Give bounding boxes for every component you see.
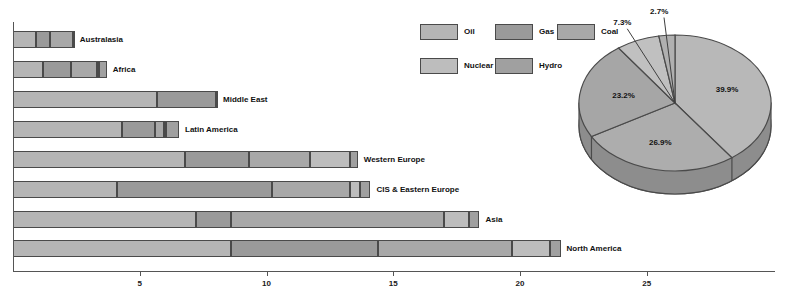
bar-segment xyxy=(13,211,196,228)
bar-category-label: North America xyxy=(567,240,622,257)
bar-segment xyxy=(13,31,36,48)
x-axis-tick xyxy=(267,271,268,276)
bar-segment xyxy=(13,151,185,168)
bar-segment xyxy=(444,211,469,228)
pie-slice-percentage: 23.2% xyxy=(612,91,635,100)
x-axis-tick-label: 5 xyxy=(130,279,150,288)
legend-label: Oil xyxy=(464,24,475,40)
x-axis-tick xyxy=(647,271,648,276)
legend-swatch-gas xyxy=(495,24,533,40)
legend-swatch-hydro xyxy=(495,58,533,74)
x-axis-tick-label: 25 xyxy=(637,279,657,288)
bar-segment xyxy=(350,181,360,198)
bar-segment xyxy=(231,211,444,228)
bar-segment xyxy=(13,181,117,198)
legend-label: Gas xyxy=(539,24,554,40)
bar-category-label: Australasia xyxy=(80,31,123,48)
pie-slice-percentage: 39.9% xyxy=(716,85,739,94)
bar-segment xyxy=(71,61,96,78)
pie-slice-percentage: 26.9% xyxy=(649,138,672,147)
bar-segment xyxy=(350,151,358,168)
bar-segment xyxy=(166,121,179,138)
bar-category-label: CIS & Eastern Europe xyxy=(376,181,459,198)
legend-swatch-nuclear xyxy=(420,58,458,74)
bar-category-label: Africa xyxy=(113,61,136,78)
chart-canvas: North AmericaAsiaCIS & Eastern EuropeWes… xyxy=(0,0,787,297)
bar-category-label: Latin America xyxy=(185,121,238,138)
bar-segment xyxy=(272,181,351,198)
bar-segment xyxy=(155,121,164,138)
pie-slice-percentage: 2.7% xyxy=(650,7,668,16)
bar-segment xyxy=(13,121,122,138)
legend-label: Hydro xyxy=(539,58,562,74)
bar-segment xyxy=(249,151,310,168)
x-axis-tick xyxy=(140,271,141,276)
x-axis-tick-label: 10 xyxy=(257,279,277,288)
bar-segment xyxy=(43,61,71,78)
bar-segment xyxy=(216,91,218,108)
bar-segment xyxy=(469,211,479,228)
bar-segment xyxy=(73,31,75,48)
bar-segment xyxy=(360,181,370,198)
legend-label: Nuclear xyxy=(464,58,493,74)
bar-segment xyxy=(196,211,231,228)
bar-segment xyxy=(512,240,550,257)
bar-segment xyxy=(122,121,155,138)
bar-segment xyxy=(231,240,378,257)
bar-segment xyxy=(185,151,248,168)
y-axis-line xyxy=(13,22,14,272)
x-axis-tick xyxy=(520,271,521,276)
bar-category-label: Western Europe xyxy=(364,151,425,168)
bar-category-label: Asia xyxy=(485,211,502,228)
bar-segment xyxy=(378,240,512,257)
bar-segment xyxy=(36,31,50,48)
pie-chart-svg xyxy=(565,8,787,213)
bar-segment xyxy=(50,31,73,48)
bar-segment xyxy=(117,181,272,198)
bar-row: North America xyxy=(13,240,775,257)
bar-segment xyxy=(550,240,560,257)
bar-segment xyxy=(13,240,231,257)
legend-swatch-oil xyxy=(420,24,458,40)
bar-segment xyxy=(157,91,215,108)
x-axis-tick xyxy=(393,271,394,276)
x-axis-tick-label: 20 xyxy=(510,279,530,288)
bar-segment xyxy=(13,61,43,78)
bar-segment xyxy=(310,151,351,168)
bar-category-label: Middle East xyxy=(223,91,267,108)
bar-segment xyxy=(13,91,157,108)
pie-chart: 39.9%26.9%23.2%7.3%2.7% xyxy=(565,8,787,213)
pie-slice-percentage: 7.3% xyxy=(613,18,631,27)
x-axis-tick-label: 15 xyxy=(383,279,403,288)
bar-segment xyxy=(99,61,107,78)
